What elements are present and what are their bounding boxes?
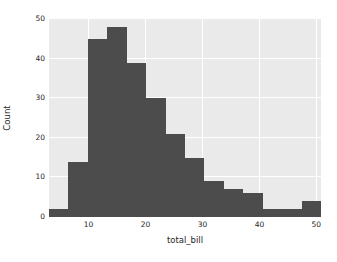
x-tick-label: 20: [125, 221, 165, 229]
x-tick-label: 30: [182, 221, 222, 229]
histogram-bar: [302, 201, 321, 217]
histogram-bar: [68, 162, 87, 217]
histogram-bar: [204, 181, 223, 217]
histogram-figure: 01020304050 1020304050 total_bill Count: [0, 0, 337, 262]
x-axis-tick-labels: 1020304050: [49, 221, 321, 233]
x-tick-label: 50: [296, 221, 336, 229]
histogram-bar: [185, 158, 204, 217]
histogram-bar: [263, 209, 282, 217]
histogram-bar: [49, 209, 68, 217]
histogram-bar: [88, 39, 107, 217]
histogram-bar: [166, 134, 185, 217]
histogram-bar: [282, 209, 301, 217]
histogram-bar: [224, 189, 243, 217]
histogram-bar: [107, 27, 126, 217]
plot-area: [49, 19, 321, 217]
histogram-bar: [243, 193, 262, 217]
histogram-bar: [146, 98, 165, 217]
histogram-bar: [127, 63, 146, 217]
histogram-bars: [49, 19, 321, 217]
x-tick-label: 40: [239, 221, 279, 229]
y-axis-label: Count: [0, 19, 14, 217]
x-axis-label: total_bill: [49, 235, 321, 245]
x-tick-label: 10: [68, 221, 108, 229]
